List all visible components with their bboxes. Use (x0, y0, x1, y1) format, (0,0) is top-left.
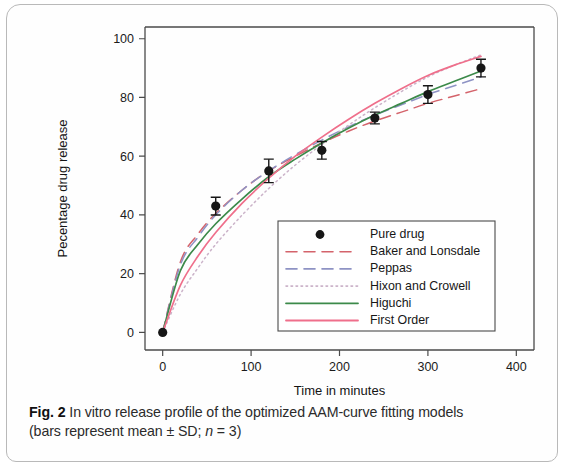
chart-figure: 020406080100 0100200300400 Pecentage dru… (7, 5, 558, 395)
y-tick-label: 20 (120, 267, 134, 281)
x-axis-ticks: 0100200300400 (159, 350, 527, 374)
y-tick-label: 80 (120, 91, 134, 105)
y-axis-title: Pecentage drug release (55, 119, 70, 257)
data-point-marker (211, 202, 220, 211)
data-point-marker (264, 166, 273, 175)
y-tick-label: 40 (120, 208, 134, 222)
x-tick-label: 400 (506, 360, 527, 374)
figure-caption: Fig. 2 In vitro release profile of the o… (29, 403, 539, 441)
figure-caption-text: In vitro release profile of the optimize… (65, 404, 463, 420)
y-tick-label: 60 (120, 150, 134, 164)
legend-label: Hixon and Crowell (370, 279, 471, 293)
x-tick-label: 0 (159, 360, 166, 374)
figure-caption-line2: (bars represent mean ± SD; n = 3) (29, 422, 539, 441)
legend-label: Pure drug (370, 227, 425, 241)
error-bars (211, 59, 486, 215)
data-point-marker (476, 64, 485, 73)
legend-label: Higuchi (370, 296, 411, 310)
x-tick-label: 100 (241, 360, 262, 374)
legend-label: Baker and Lonsdale (370, 244, 480, 258)
chart-legend: Pure drugBaker and LonsdalePeppasHixon a… (278, 221, 495, 331)
data-point-marker (317, 146, 326, 155)
caption-n-italic: n (205, 423, 213, 439)
y-axis-ticks: 020406080100 (113, 32, 145, 340)
legend-label: Peppas (370, 261, 412, 275)
y-tick-label: 0 (127, 326, 134, 340)
figure-page-card: 020406080100 0100200300400 Pecentage dru… (6, 4, 558, 462)
legend-marker-icon (316, 230, 325, 239)
release-profile-chart: 020406080100 0100200300400 Pecentage dru… (7, 5, 558, 395)
x-axis-title: Time in minutes (294, 383, 386, 395)
caption-n-value: = 3) (213, 423, 241, 439)
x-tick-label: 300 (417, 360, 438, 374)
data-point-marker (158, 328, 167, 337)
legend-label: First Order (370, 313, 429, 327)
x-tick-label: 200 (329, 360, 350, 374)
data-point-marker (423, 90, 432, 99)
caption-bars-text: (bars represent mean ± SD; (29, 423, 205, 439)
data-point-marker (370, 113, 379, 122)
y-tick-label: 100 (113, 32, 134, 46)
figure-number: Fig. 2 (29, 404, 65, 420)
